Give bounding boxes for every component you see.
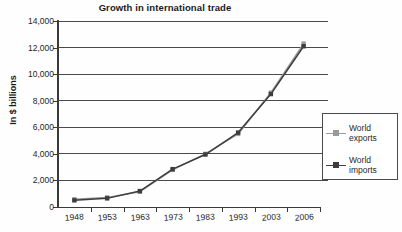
- series-world-imports: [72, 44, 306, 203]
- data-point: [170, 167, 174, 171]
- data-point: [301, 44, 305, 48]
- legend-label: Worldexports: [349, 123, 377, 143]
- series-world-exports: [72, 41, 306, 201]
- legend-item-world-imports[interactable]: Worldimports: [323, 150, 397, 180]
- series-line: [74, 46, 303, 200]
- legend-square-icon: [333, 130, 339, 136]
- legend-square-icon: [333, 162, 339, 168]
- legend-marker-icon: [323, 127, 349, 139]
- data-point: [105, 196, 109, 200]
- data-point: [269, 92, 273, 96]
- legend-marker-icon: [323, 159, 349, 171]
- data-point: [203, 152, 207, 156]
- data-point: [138, 189, 142, 193]
- data-point: [72, 198, 76, 202]
- legend-item-world-exports[interactable]: Worldexports: [323, 118, 397, 148]
- legend-box: WorldexportsWorldimports: [322, 113, 398, 180]
- series-line: [74, 44, 303, 200]
- data-point: [236, 130, 240, 134]
- legend-label: Worldimports: [349, 155, 377, 175]
- chart-figure: Growth in international trade In $ billi…: [0, 0, 402, 232]
